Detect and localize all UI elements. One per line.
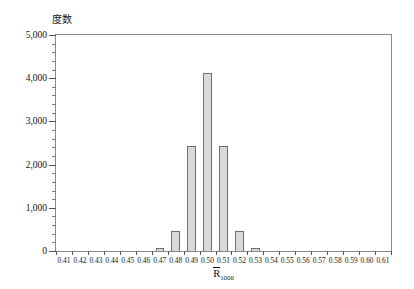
y-axis-minor-tick (52, 147, 56, 148)
x-axis-tick-label: 0.46 (137, 256, 150, 265)
x-axis-tick (359, 251, 360, 255)
x-axis-tick-label: 0.51 (217, 256, 230, 265)
y-axis-tick-label: 1,000 (26, 203, 47, 213)
x-axis-tick-label: 0.48 (169, 256, 182, 265)
y-axis-minor-tick (52, 52, 56, 53)
y-axis-minor-tick (52, 70, 56, 71)
histogram-bar (187, 146, 195, 251)
x-axis-tick (343, 251, 344, 255)
y-axis-minor-tick (52, 173, 56, 174)
x-axis-tick-label: 0.59 (345, 256, 358, 265)
x-axis-tick (168, 251, 169, 255)
y-axis-tick (49, 208, 56, 209)
x-axis-tick-label: 0.44 (105, 256, 118, 265)
x-axis-tick (120, 251, 121, 255)
y-axis-minor-tick (52, 199, 56, 200)
x-axis-tick (200, 251, 201, 255)
x-axis-tick (279, 251, 280, 255)
y-axis-minor-tick (52, 234, 56, 235)
y-axis-tick (49, 251, 56, 252)
y-axis-tick-label: 2,000 (26, 160, 47, 170)
y-axis-minor-tick (52, 242, 56, 243)
y-axis-minor-tick (52, 225, 56, 226)
x-axis-tick-label: 0.60 (361, 256, 374, 265)
x-axis-tick (104, 251, 105, 255)
x-axis-title: R1000 (55, 268, 392, 281)
y-axis-tick (49, 165, 56, 166)
x-axis-tick (216, 251, 217, 255)
y-axis-minor-tick (52, 216, 56, 217)
y-axis-tick-label: 5,000 (26, 30, 47, 40)
x-axis-tick (88, 251, 89, 255)
x-axis-tick-label: 0.56 (297, 256, 310, 265)
histogram-bar (171, 231, 179, 251)
y-axis-tick (49, 35, 56, 36)
x-axis-tick-label: 0.61 (377, 256, 390, 265)
x-axis-tick-label: 0.47 (153, 256, 166, 265)
x-axis-tick-label: 0.50 (201, 256, 214, 265)
y-axis-minor-tick (52, 139, 56, 140)
plot-area: 01,0002,0003,0004,0005,0000.410.420.430.… (55, 34, 392, 252)
x-axis-tick-label: 0.43 (89, 256, 102, 265)
y-axis-minor-tick (52, 95, 56, 96)
histogram-bar (235, 231, 243, 251)
x-axis-tick (152, 251, 153, 255)
y-axis-minor-tick (52, 156, 56, 157)
x-axis-tick (263, 251, 264, 255)
x-axis-tick-label: 0.55 (281, 256, 294, 265)
x-axis-tick (72, 251, 73, 255)
x-axis-tick-label: 0.41 (58, 256, 71, 265)
y-axis-minor-tick (52, 130, 56, 131)
y-axis-tick (49, 78, 56, 79)
y-axis-tick (49, 121, 56, 122)
x-axis-tick-label: 0.42 (73, 256, 86, 265)
x-axis-tick-label: 0.54 (265, 256, 278, 265)
y-axis-tick-label: 3,000 (26, 116, 47, 126)
x-axis-tick (136, 251, 137, 255)
bar-series (56, 35, 391, 251)
x-axis-title-subscript: 1000 (220, 274, 234, 281)
x-axis-tick-label: 0.45 (121, 256, 134, 265)
y-axis-minor-tick (52, 44, 56, 45)
x-axis-tick (327, 251, 328, 255)
x-axis-tick (56, 251, 57, 255)
x-axis-tick-label: 0.57 (313, 256, 326, 265)
histogram-bar (219, 146, 227, 251)
x-axis-tick-label: 0.49 (185, 256, 198, 265)
x-axis-tick (231, 251, 232, 255)
x-axis-tick (247, 251, 248, 255)
histogram-figure: 度数 01,0002,0003,0004,0005,0000.410.420.4… (0, 0, 414, 289)
y-axis-minor-tick (52, 104, 56, 105)
x-axis-title-variable: R (213, 268, 220, 279)
y-axis-minor-tick (52, 182, 56, 183)
x-axis-tick-label: 0.53 (249, 256, 262, 265)
y-axis-title: 度数 (52, 11, 72, 26)
y-axis-tick-label: 0 (42, 246, 47, 256)
x-axis-tick (311, 251, 312, 255)
x-axis-tick (184, 251, 185, 255)
histogram-bar (251, 248, 259, 251)
y-axis-tick-label: 4,000 (26, 73, 47, 83)
overbar (213, 267, 220, 268)
histogram-bar (156, 248, 164, 251)
x-axis-tick-label: 0.52 (233, 256, 246, 265)
x-axis-tick-label: 0.58 (329, 256, 342, 265)
y-axis-minor-tick (52, 191, 56, 192)
y-axis-minor-tick (52, 113, 56, 114)
x-axis-title-letter: R (213, 268, 220, 279)
histogram-bar (203, 73, 211, 251)
x-axis-tick (375, 251, 376, 255)
y-axis-minor-tick (52, 87, 56, 88)
y-axis-minor-tick (52, 61, 56, 62)
x-axis-tick (391, 251, 392, 255)
x-axis-tick (295, 251, 296, 255)
